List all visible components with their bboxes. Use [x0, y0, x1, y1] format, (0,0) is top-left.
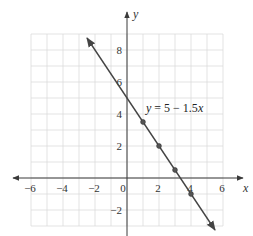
data-point [173, 168, 178, 173]
data-series [87, 38, 215, 230]
data-point [189, 192, 194, 197]
axes [13, 12, 243, 236]
x-tick-label: 0 [120, 182, 126, 194]
y-tick-label: −2 [110, 204, 122, 216]
y-tick-label: 8 [117, 44, 123, 56]
data-point [157, 144, 162, 149]
y-axis-label: y [132, 7, 139, 21]
coordinate-plane: −6−4−20246−22468 x y y = 5 − 1.5x [0, 0, 253, 236]
x-tick-label: −2 [88, 182, 100, 194]
y-tick-label: 2 [117, 140, 123, 152]
x-tick-label: 2 [155, 182, 161, 194]
data-point [141, 120, 146, 125]
y-tick-label: 4 [117, 108, 123, 120]
x-tick-label: 6 [219, 182, 225, 194]
line-y-equals-5-minus-1.5x [87, 38, 215, 230]
equation-label: y = 5 − 1.5x [145, 101, 204, 115]
x-tick-label: −6 [24, 182, 36, 194]
equation-body: = 5 − 1.5 [151, 101, 198, 115]
x-axis-label: x [242, 181, 249, 195]
x-tick-label: −4 [56, 182, 68, 194]
equation-x: x [197, 101, 204, 115]
